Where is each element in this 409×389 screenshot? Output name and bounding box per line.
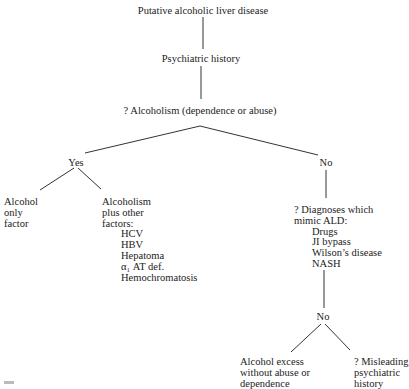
edge-alcoholism-yes <box>85 126 200 153</box>
label-yes: Yes <box>68 157 83 168</box>
edge-yes-alcohol-only <box>40 168 74 190</box>
node-alcoholism: ? Alcoholism (dependence or abuse) <box>124 105 277 116</box>
node-alcohol-excess: Alcohol excess without abuse or dependen… <box>240 357 310 389</box>
edge-yes-alcoholism-plus <box>78 168 101 189</box>
label-no-second: No <box>317 311 330 322</box>
edge-no-alcohol-excess <box>291 324 321 352</box>
node-alcoholism-plus-factors: Alcoholism plus other factors: HCV HBV H… <box>102 197 197 283</box>
node-alcohol-only-factor: Alcohol only factor <box>4 197 38 229</box>
factor-list: HCV HBV Hepatoma α₁ AT def. Hemochromato… <box>102 229 197 283</box>
node-misleading-history: ? Misleading psychiatric history <box>354 357 409 389</box>
node-diagnoses-mimic-ald: ? Diagnoses which mimic ALD: Drugs JI by… <box>294 205 382 270</box>
edge-no-misleading <box>325 324 350 350</box>
edge-alcoholism-no <box>200 126 318 155</box>
node-root: Putative alcoholic liver disease <box>138 5 268 16</box>
mimic-list: Drugs JI bypass Wilson’s disease NASH <box>294 227 382 270</box>
clipped-caption-fragment <box>4 381 14 384</box>
node-psychiatric-history: Psychiatric history <box>162 53 240 64</box>
label-no: No <box>320 157 333 168</box>
